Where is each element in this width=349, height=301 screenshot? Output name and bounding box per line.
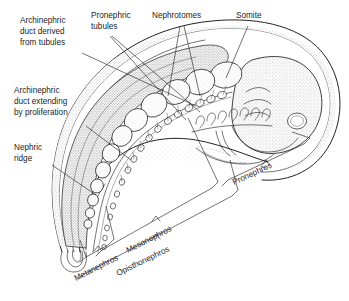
label-line: from tubules (20, 38, 65, 47)
label-somite: Somite (236, 11, 262, 20)
label-nephrotomes: Nephrotomes (152, 11, 201, 20)
label-line: tubules (91, 22, 117, 31)
label-line: Archinephric (20, 16, 66, 25)
somite (84, 219, 93, 228)
label-line: Nephrotomes (152, 11, 201, 20)
label-line: ridge (14, 154, 33, 163)
label-line: Pronephric (91, 11, 131, 20)
label-line: duct derived (20, 27, 65, 36)
label-line: Archinephric (14, 86, 60, 95)
kidney-development-figure: Archinephric duct derived from tubules A… (0, 0, 349, 301)
label-line: by proliferation (14, 108, 68, 117)
figure-canvas: Archinephric duct derived from tubules A… (0, 0, 349, 301)
label-line: Nephric (14, 143, 42, 152)
label-line: duct extending (14, 97, 68, 106)
label-archinephric-duct-derived: Archinephric duct derived from tubules (20, 16, 66, 47)
label-line: Somite (236, 11, 262, 20)
